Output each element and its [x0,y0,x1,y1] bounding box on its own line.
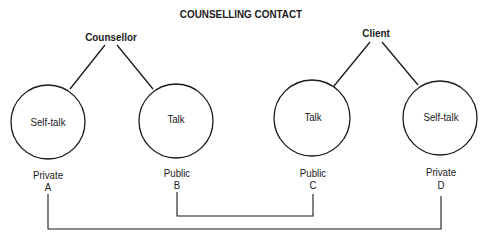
node-type-a: Private [33,170,63,181]
node-type-d: Private [426,167,456,178]
party-counsellor: Counsellor [85,32,137,44]
node-label-d: Self-talk [424,112,459,123]
node-letter-a: A [45,182,51,193]
party-client: Client [362,28,389,40]
connector-a-d [48,194,441,229]
node-type-b: Public [164,168,190,179]
node-letter-b: B [174,180,180,191]
node-label-c: Talk [304,112,321,123]
client-to-talk-line [334,42,370,86]
diagram-canvas [0,0,490,239]
connector-b-c [177,192,313,216]
node-letter-c: C [310,180,317,191]
node-letter-d: D [438,180,445,191]
counsellor-to-talk-line [117,45,153,89]
node-label-a: Self-talk [31,117,66,128]
client-to-selftalk-line [382,42,418,85]
counsellor-to-selftalk-line [70,45,105,89]
diagram-title: COUNSELLING CONTACT [180,9,302,21]
node-type-c: Public [300,168,326,179]
node-label-b: Talk [167,114,184,125]
